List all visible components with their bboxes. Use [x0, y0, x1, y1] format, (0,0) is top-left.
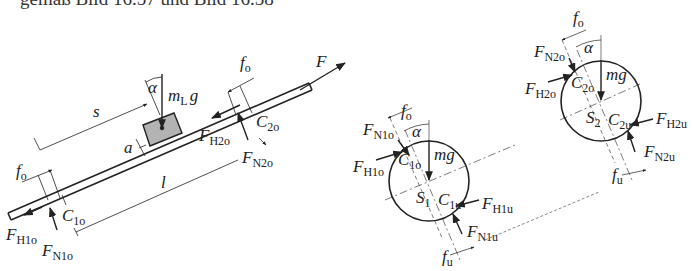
r2-label-C2o: C2o [571, 73, 594, 95]
r2-label-mg: mg [606, 65, 627, 84]
force-FN2o-arrow [238, 113, 248, 140]
label-FN2o: FN2o [241, 148, 273, 170]
r1-label-C1u: C1u [438, 190, 461, 212]
left-figure-labels: F α mLg s a fo C2o FH2o FN2o l fo C1o FH… [5, 52, 327, 263]
r1-label-mg: mg [434, 145, 455, 164]
r2-label-fu: fu [612, 165, 623, 187]
label-FH1o: FH1o [5, 225, 37, 247]
r1-label-S1: S1 [416, 188, 431, 210]
r1-label-fu: fu [442, 247, 453, 269]
label-l: l [161, 173, 166, 192]
force-FN1o-arrow [50, 208, 57, 230]
label-C2o: C2o [256, 112, 279, 134]
force-FH1o-arrow [24, 207, 42, 215]
label-F: F [315, 52, 327, 71]
label-s: s [93, 102, 100, 121]
label-C1o: C1o [62, 206, 85, 228]
label-FH2o: FH2o [198, 126, 230, 148]
label-fo-top: fo [240, 53, 251, 75]
r2-label-C2u: C2u [608, 110, 631, 132]
label-fo-left: fo [16, 161, 27, 183]
r2-label-alpha: α [584, 38, 594, 57]
r2-label-FH2o: FH2o [524, 79, 556, 101]
r1-label-FH1u: FH1u [481, 194, 513, 216]
r1-label-FN1o: FN1o [362, 120, 394, 142]
r2-label-FN2u: FN2u [643, 142, 675, 164]
label-FN1o: FN1o [41, 241, 73, 263]
r1-label-fo: fo [401, 101, 412, 123]
r1-label-C1o: C1o [398, 150, 421, 172]
inclined-beam [8, 83, 312, 220]
r1-label-FN1u: FN1u [466, 222, 498, 244]
roller-2-labels: fo α FN2o FH2o C2o mg S2 C2u FH2u FN2u f… [524, 8, 687, 187]
r1-label-alpha: α [412, 122, 422, 141]
connector-dashed-line [485, 192, 599, 240]
label-alpha: α [148, 78, 158, 97]
mechanics-diagram: F α mLg s a fo C2o FH2o FN2o l fo C1o FH… [0, 0, 694, 271]
r2-label-fo: fo [573, 8, 584, 30]
label-a: a [124, 138, 133, 157]
r1-label-FH1o: FH1o [352, 157, 384, 179]
r2-label-FH2u: FH2u [655, 109, 687, 131]
r2-label-FN2o: FN2o [533, 42, 565, 64]
force-FH2o-arrow [212, 105, 240, 118]
dimension-l [76, 160, 238, 232]
r2-label-S2: S2 [586, 108, 601, 130]
roller-1-labels: fo α FN1o FH1o C1o mg S1 C1u FH1u FN1u f… [352, 101, 513, 269]
label-mLg: mLg [168, 86, 198, 108]
